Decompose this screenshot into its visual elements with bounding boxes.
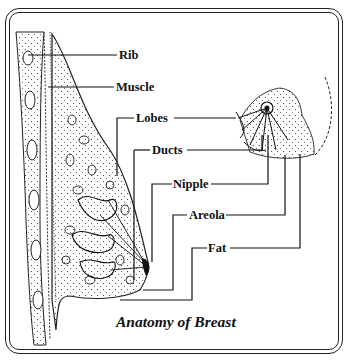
label-lobes: Lobes (136, 112, 168, 125)
breast-profile (52, 34, 149, 330)
chest-wall (16, 32, 46, 345)
label-areola: Areola (189, 209, 225, 222)
label-nipple: Nipple (173, 178, 208, 191)
muscle-layer (44, 32, 50, 340)
diagram-caption: Anatomy of Breast (116, 313, 236, 331)
label-muscle: Muscle (116, 81, 154, 94)
frontal-inset-view (236, 77, 332, 158)
label-fat: Fat (208, 242, 226, 255)
label-ducts: Ducts (152, 144, 183, 157)
label-rib: Rib (119, 49, 138, 62)
